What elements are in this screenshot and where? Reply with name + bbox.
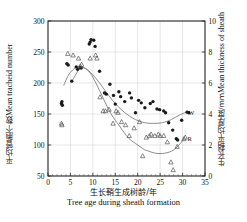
data-point-sheath: [88, 56, 92, 60]
svg-text:100: 100: [33, 141, 45, 150]
data-point-sheath: [140, 154, 144, 158]
data-point-tracheid: [119, 95, 122, 98]
data-point-tracheid: [164, 111, 167, 114]
data-point-tracheid: [180, 119, 183, 122]
svg-text:5: 5: [69, 178, 73, 187]
svg-text:30: 30: [179, 178, 187, 187]
data-point-sheath: [162, 134, 166, 138]
data-point-sheath: [111, 121, 115, 125]
data-point-tracheid: [60, 100, 63, 103]
svg-text:4: 4: [209, 110, 213, 119]
svg-text:10: 10: [89, 178, 97, 187]
y-axis-left-title-cn: 平均管胞个数: [6, 116, 14, 164]
data-point-sheath: [132, 126, 136, 130]
data-point-tracheid: [123, 100, 126, 103]
data-point-sheath: [169, 160, 173, 164]
y-axis-left-title-en: Mean tracheid number: [6, 44, 15, 116]
data-point-sheath: [127, 134, 131, 138]
data-point-tracheid: [128, 91, 131, 94]
svg-text:20: 20: [134, 178, 142, 187]
data-point-tracheid: [61, 104, 64, 107]
data-point-tracheid: [151, 100, 154, 103]
data-point-tracheid: [92, 39, 95, 42]
series-label-W: W: [188, 109, 195, 116]
svg-text:200: 200: [33, 79, 45, 88]
data-point-tracheid: [98, 70, 101, 73]
plot-frame: [48, 21, 205, 176]
data-point-sheath: [95, 56, 99, 60]
svg-text:10: 10: [209, 17, 217, 26]
data-point-tracheid: [130, 96, 133, 99]
svg-text:2: 2: [209, 141, 213, 150]
svg-text:6: 6: [209, 79, 213, 88]
svg-text:15: 15: [112, 178, 120, 187]
data-point-tracheid: [171, 128, 174, 131]
x-axis-ticks: 05101520253035: [46, 173, 209, 187]
y-axis-right-title-en: Mean thickness of sheath: [218, 12, 227, 93]
data-point-tracheid: [105, 92, 108, 95]
data-point-tracheid: [143, 106, 146, 109]
svg-text:0: 0: [46, 178, 50, 187]
svg-text:250: 250: [33, 48, 45, 57]
data-point-tracheid: [117, 90, 120, 93]
sheath-fit-curve: [73, 68, 184, 154]
y-axis-right-ticks: 0246810: [202, 17, 216, 181]
data-point-sheath: [76, 56, 80, 60]
data-point-sheath: [171, 168, 175, 172]
data-point-tracheid: [176, 138, 179, 141]
svg-text:300: 300: [33, 17, 45, 26]
data-point-tracheid: [134, 111, 137, 114]
y-axis-right-title-cn: 生长鞘平均厚度/mm: [218, 93, 226, 166]
svg-text:0: 0: [209, 172, 213, 181]
x-axis-title: 生长鞘生成树龄/年 Tree age during sheath formati…: [0, 188, 247, 208]
svg-text:25: 25: [156, 178, 164, 187]
data-point-tracheid: [93, 45, 96, 48]
data-point-tracheid: [167, 121, 170, 124]
data-point-tracheid: [112, 94, 115, 97]
x-axis-title-cn: 生长鞘生成树龄/年: [0, 188, 247, 197]
data-point-tracheid: [66, 63, 69, 66]
series-inline-labels: WR: [187, 109, 195, 142]
svg-text:8: 8: [209, 48, 213, 57]
y-axis-right-title: 生长鞘平均厚度/mm Mean thickness of sheath: [218, 36, 227, 166]
y-axis-left-title: 平均管胞个数 Mean tracheid number: [6, 44, 15, 164]
data-point-tracheid: [108, 83, 111, 86]
data-point-tracheid: [158, 108, 161, 111]
data-point-tracheid: [137, 99, 140, 102]
grid-lines: [48, 21, 205, 176]
data-point-sheath: [71, 53, 75, 57]
svg-text:150: 150: [33, 110, 45, 119]
x-axis-title-en: Tree age during sheath formation: [0, 198, 247, 208]
data-point-tracheid: [140, 101, 143, 104]
chart-figure: 05101520253035 50100150200250300 0246810…: [0, 0, 247, 222]
svg-text:50: 50: [37, 172, 45, 181]
tracheid-fit-curve: [64, 67, 185, 124]
data-point-sheath: [123, 123, 127, 127]
data-point-sheath: [119, 120, 123, 124]
data-point-tracheid: [70, 79, 73, 82]
data-point-sheath: [165, 140, 169, 144]
series-label-R: R: [187, 135, 192, 142]
data-point-tracheid: [114, 102, 117, 105]
